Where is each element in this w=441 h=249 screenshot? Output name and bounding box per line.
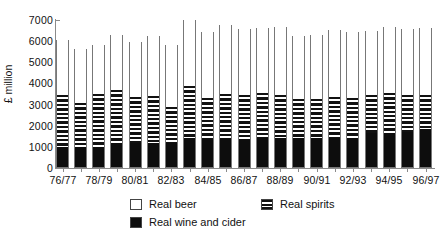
bar-segment-wine — [57, 147, 68, 167]
bar-segment-spirits — [75, 103, 86, 147]
bar-segment-wine — [220, 139, 231, 167]
bar-77-78[interactable] — [74, 49, 87, 168]
bar-segment-beer — [202, 31, 213, 98]
x-axis-tick-label: 92/93 — [340, 174, 367, 186]
x-axis-tick-label: 94/95 — [376, 174, 403, 186]
y-axis-tick-mark — [56, 20, 60, 21]
bar-segment-spirits — [202, 98, 213, 138]
bar-segment-spirits — [184, 86, 195, 138]
bar-segment-wine — [366, 133, 377, 167]
bar-segment-spirits — [111, 90, 122, 143]
x-axis-tick-mark — [226, 168, 227, 172]
bar-segment-spirits — [293, 99, 304, 138]
y-axis-tick-label: 1000 — [29, 141, 56, 153]
legend-swatch-beer-icon — [130, 199, 142, 210]
bar-segment-spirits — [166, 107, 177, 143]
x-axis-tick-label: 88/89 — [267, 174, 294, 186]
bar-segment-beer — [93, 44, 104, 95]
bar-segment-wine — [166, 143, 177, 167]
legend-swatch-wine-icon — [130, 217, 142, 228]
bar-86-87[interactable] — [238, 29, 251, 168]
x-axis-tick-mark — [426, 168, 427, 172]
bar-segment-spirits — [420, 95, 431, 129]
y-axis-tick: 3000 — [29, 99, 56, 111]
bar-96-97[interactable] — [419, 28, 432, 168]
bar-segment-wine — [420, 129, 431, 167]
bar-segment-beer — [166, 44, 177, 107]
legend-item-real-wine-and-cider[interactable]: Real wine and cider — [130, 216, 246, 228]
bar-segment-beer — [111, 34, 122, 90]
x-axis-line — [55, 168, 435, 169]
bar-segment-beer — [347, 32, 358, 99]
x-axis-tick-mark — [63, 168, 64, 172]
bar-80-81[interactable] — [129, 42, 142, 168]
bar-segment-spirits — [366, 95, 377, 133]
legend-item-real-spirits[interactable]: Real spirits — [261, 198, 334, 210]
bar-81-82[interactable] — [147, 36, 160, 168]
bar-segment-beer — [75, 48, 86, 102]
x-axis-tick-mark — [153, 168, 154, 172]
bar-segment-beer — [275, 26, 286, 95]
legend-item-real-beer[interactable]: Real beer — [130, 198, 197, 210]
bar-82-83[interactable] — [165, 45, 178, 168]
y-axis-tick-label: 5000 — [29, 56, 56, 68]
y-axis-tick-label: 0 — [47, 162, 56, 174]
x-axis-tick-mark — [317, 168, 318, 172]
bar-95-96[interactable] — [401, 29, 414, 168]
bar-92-93[interactable] — [346, 32, 359, 168]
x-axis-tick-mark — [117, 168, 118, 172]
y-axis-tick: 7000 — [29, 14, 56, 26]
bar-segment-beer — [329, 29, 340, 97]
y-axis-tick: 0 — [47, 162, 56, 174]
bar-85-86[interactable] — [219, 25, 232, 168]
bar-segment-wine — [293, 138, 304, 167]
y-axis-label: £ million — [2, 65, 14, 104]
bar-90-91[interactable] — [310, 35, 323, 168]
x-axis-tick-mark — [280, 168, 281, 172]
y-axis-tick: 4000 — [29, 77, 56, 89]
bar-84-85[interactable] — [201, 32, 214, 168]
x-axis-tick-mark — [335, 168, 336, 172]
bar-segment-beer — [311, 34, 322, 99]
bar-87-88[interactable] — [256, 28, 269, 168]
legend-label-real-beer: Real beer — [149, 198, 197, 210]
bar-segment-beer — [384, 26, 395, 93]
y-axis-tick: 6000 — [29, 35, 56, 47]
bar-segment-beer — [402, 28, 413, 95]
bar-segment-spirits — [311, 99, 322, 139]
bar-segment-wine — [239, 139, 250, 167]
bar-segment-wine — [257, 138, 268, 167]
bar-segment-wine — [130, 143, 141, 167]
bar-94-95[interactable] — [383, 27, 396, 168]
legend-swatch-spirits-icon — [261, 199, 273, 210]
y-axis-tick-label: 6000 — [29, 35, 56, 47]
legend-label-real-spirits: Real spirits — [280, 198, 334, 210]
bar-segment-beer — [257, 27, 268, 94]
bar-segment-beer — [130, 41, 141, 97]
x-axis-tick-mark — [135, 168, 136, 172]
bar-91-92[interactable] — [328, 30, 341, 168]
bar-78-79[interactable] — [92, 45, 105, 168]
bar-segment-wine — [148, 143, 159, 167]
x-axis-tick-label: 78/79 — [86, 174, 113, 186]
bar-89-90[interactable] — [292, 36, 305, 168]
x-axis-tick-mark — [171, 168, 172, 172]
x-axis-tick-mark — [208, 168, 209, 172]
bar-segment-spirits — [148, 96, 159, 143]
x-axis-tick-mark — [371, 168, 372, 172]
x-axis-tick-label: 82/83 — [158, 174, 185, 186]
bar-segment-wine — [329, 138, 340, 167]
bar-segment-spirits — [130, 97, 141, 143]
bar-88-89[interactable] — [274, 27, 287, 168]
bar-segment-wine — [402, 132, 413, 167]
x-axis-tick-label: 86/87 — [231, 174, 258, 186]
bar-79-80[interactable] — [110, 35, 123, 168]
x-axis-tick-mark — [190, 168, 191, 172]
bar-segment-beer — [148, 35, 159, 96]
bar-93-94[interactable] — [365, 31, 378, 168]
x-axis-tick-label: 76/77 — [50, 174, 77, 186]
y-axis-tick-label: 3000 — [29, 99, 56, 111]
bar-76-77[interactable] — [56, 40, 69, 168]
bar-segment-wine — [93, 147, 104, 167]
bar-83-84[interactable] — [183, 20, 196, 168]
